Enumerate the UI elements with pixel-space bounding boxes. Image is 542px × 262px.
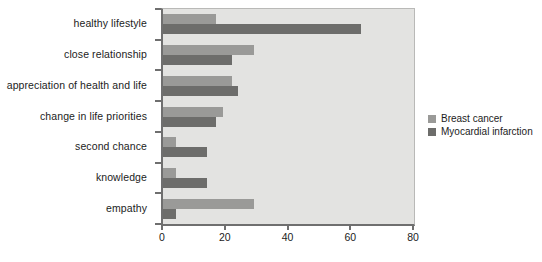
x-tick-label: 80 — [407, 231, 419, 243]
bar-1 — [163, 117, 216, 127]
x-tick-label: 20 — [219, 231, 231, 243]
category-label: close relationship — [0, 39, 155, 70]
bar-group — [163, 193, 414, 224]
bar-0 — [163, 14, 216, 24]
legend-label: Myocardial infarction — [441, 126, 533, 137]
x-tick-mark — [412, 225, 414, 230]
bar-1 — [163, 86, 238, 96]
category-label: empathy — [0, 192, 155, 223]
legend: Breast cancerMyocardial infarction — [428, 113, 533, 137]
x-tick-label: 0 — [159, 231, 165, 243]
bar-0 — [163, 199, 254, 209]
x-tick-mark — [349, 225, 351, 230]
bar-0 — [163, 45, 254, 55]
bar-group — [163, 132, 414, 163]
legend-entry: Myocardial infarction — [428, 126, 533, 137]
bar-0 — [163, 76, 232, 86]
bar-1 — [163, 209, 176, 219]
legend-swatch-icon — [428, 115, 436, 123]
bar-0 — [163, 107, 223, 117]
legend-entry: Breast cancer — [428, 113, 533, 124]
category-label: change in life priorities — [0, 100, 155, 131]
plot-area — [161, 8, 415, 226]
bar-group — [163, 70, 414, 101]
category-label: healthy lifestyle — [0, 8, 155, 39]
x-tick-mark — [224, 225, 226, 230]
x-tick-mark — [287, 225, 289, 230]
bar-group — [163, 101, 414, 132]
category-label: second chance — [0, 131, 155, 162]
bar-1 — [163, 178, 207, 188]
bar-chart: healthy lifestyleclose relationshipappre… — [0, 0, 542, 262]
x-tick-label: 40 — [282, 231, 294, 243]
bars-layer — [163, 9, 414, 224]
bar-0 — [163, 137, 176, 147]
legend-label: Breast cancer — [441, 113, 503, 124]
category-axis: healthy lifestyleclose relationshipappre… — [0, 8, 155, 223]
bar-group — [163, 9, 414, 40]
bar-1 — [163, 24, 361, 34]
x-tick-label: 60 — [344, 231, 356, 243]
bar-1 — [163, 147, 207, 157]
bar-group — [163, 40, 414, 71]
bar-0 — [163, 168, 176, 178]
legend-swatch-icon — [428, 128, 436, 136]
x-tick-mark — [161, 225, 163, 230]
bar-group — [163, 163, 414, 194]
bar-1 — [163, 55, 232, 65]
x-axis-labels: 020406080 — [0, 231, 542, 247]
category-label: knowledge — [0, 162, 155, 193]
category-label: appreciation of health and life — [0, 69, 155, 100]
